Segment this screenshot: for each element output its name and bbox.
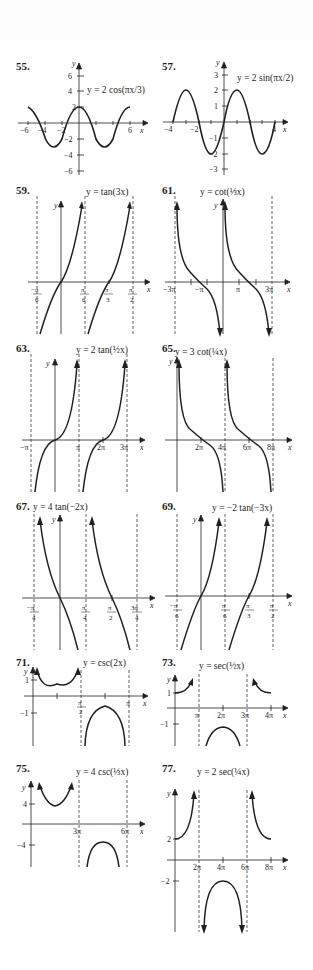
svg-text:1: 1 — [25, 676, 29, 685]
svg-text:2π: 2π — [217, 711, 225, 720]
svg-text:4π: 4π — [217, 863, 225, 872]
svg-text:π: π — [108, 604, 112, 612]
graph-55-plot: 642 −2−4−6 −6−4−2 6x y — [0, 60, 155, 180]
svg-text:π: π — [222, 602, 226, 610]
svg-text:−3: −3 — [209, 165, 218, 174]
graph-69-plot: yx −ππππ 6632 — [155, 500, 313, 650]
svg-text:6: 6 — [175, 612, 179, 620]
svg-text:x: x — [142, 699, 147, 708]
svg-text:y: y — [21, 783, 26, 792]
graph-59: 59. yx −ππππ 6632 y = tan(3x) — [0, 184, 155, 334]
svg-text:π: π — [105, 286, 109, 294]
svg-text:4: 4 — [83, 614, 87, 622]
svg-text:π: π — [270, 602, 274, 610]
svg-text:x: x — [146, 285, 151, 294]
svg-text:2π: 2π — [97, 443, 105, 452]
graph-63: 63. yx −ππ2π3π y = 2 tan(½x) — [0, 342, 155, 492]
svg-text:1: 1 — [167, 689, 171, 698]
svg-text:6π: 6π — [121, 827, 129, 836]
graph-57: 57. 321 −1−2−3 −4−24 xy y = 2 sin(πx/2) — [155, 60, 313, 180]
graph-63-plot: yx −ππ2π3π — [0, 342, 155, 492]
equation-label: y = −2 tan(−3x) — [212, 503, 272, 513]
svg-text:2: 2 — [167, 835, 171, 844]
svg-text:1: 1 — [214, 102, 218, 111]
graph-75-plot: yx 4−4 3π6π — [0, 762, 155, 867]
svg-text:3π: 3π — [131, 604, 139, 612]
svg-text:π: π — [78, 699, 82, 707]
svg-text:−π: −π — [195, 285, 204, 294]
graph-65: 65. yx 2π4π6π8π y = 3 cot(¼x) — [155, 342, 313, 492]
svg-text:x: x — [282, 863, 287, 872]
svg-text:6π: 6π — [241, 863, 249, 872]
graph-67: 67. yx −πππ3π 4424 y = 4 tan(−2x) — [0, 500, 155, 650]
svg-text:y: y — [23, 667, 28, 676]
svg-text:6: 6 — [82, 296, 86, 304]
svg-text:4π: 4π — [265, 711, 273, 720]
svg-text:y: y — [166, 789, 171, 798]
svg-text:−4: −4 — [164, 125, 173, 134]
equation-label: y = 4 tan(−2x) — [33, 502, 88, 512]
svg-text:6: 6 — [68, 72, 72, 81]
svg-text:3: 3 — [214, 71, 218, 80]
svg-text:6π: 6π — [243, 443, 251, 452]
faded-top-band — [0, 0, 313, 40]
svg-text:y: y — [168, 357, 173, 366]
equation-label: y = csc(2x) — [83, 658, 126, 668]
svg-text:π: π — [236, 285, 240, 294]
svg-text:y: y — [166, 675, 171, 684]
svg-text:3π: 3π — [120, 443, 128, 452]
equation-label: y = tan(3x) — [86, 187, 128, 197]
svg-text:2π: 2π — [195, 443, 203, 452]
equation-label: y = 2 sin(πx/2) — [237, 73, 293, 83]
svg-text:x: x — [286, 285, 291, 294]
svg-text:y: y — [45, 359, 50, 368]
svg-text:−π: −π — [27, 604, 35, 612]
svg-text:−4: −4 — [17, 841, 26, 850]
svg-text:−6: −6 — [64, 167, 73, 176]
svg-text:x: x — [287, 443, 292, 452]
equation-label: y = cot(⅓x) — [200, 187, 245, 197]
svg-text:4: 4 — [272, 125, 276, 134]
svg-text:2: 2 — [79, 708, 83, 716]
svg-text:4π: 4π — [218, 443, 226, 452]
graph-69: 69. yx −ππππ 6632 y = −2 tan(−3x) — [155, 500, 313, 650]
graph-75: 75. yx 4−4 3π6π y = 4 csc(⅓x) — [0, 762, 155, 867]
graph-67-plot: yx −πππ3π 4424 — [0, 500, 155, 650]
svg-text:3π: 3π — [241, 711, 249, 720]
svg-text:−2: −2 — [190, 125, 199, 134]
equation-label: y = 2 sec(¼x) — [197, 767, 249, 777]
graph-77: 77. yx 2−2 2π4π6π8π y = 2 sec(¼x) — [155, 762, 313, 962]
svg-text:y: y — [71, 59, 76, 68]
equation-label: y = 3 cot(¼x) — [175, 347, 227, 357]
svg-text:x: x — [149, 601, 154, 610]
graph-61: 61. yx −3π−ππ3π y = cot(⅓x) — [155, 184, 313, 334]
svg-text:2: 2 — [271, 612, 275, 620]
svg-text:−4: −4 — [64, 151, 73, 160]
svg-text:8π: 8π — [265, 863, 273, 872]
svg-text:4: 4 — [23, 800, 27, 809]
graph-73: 73. yx 1−1 π2π3π4π y = sec(½x) — [155, 656, 313, 746]
svg-text:−π: −π — [20, 443, 29, 452]
svg-text:π: π — [246, 602, 250, 610]
svg-text:4: 4 — [135, 614, 139, 622]
svg-text:2: 2 — [72, 103, 76, 112]
svg-text:π: π — [129, 286, 133, 294]
svg-text:x: x — [139, 443, 144, 452]
svg-text:2π: 2π — [193, 863, 201, 872]
svg-text:4: 4 — [68, 87, 72, 96]
equation-label: y = 2 tan(½x) — [76, 345, 128, 355]
svg-text:2: 2 — [214, 86, 218, 95]
graph-61-plot: yx −3π−ππ3π — [155, 184, 313, 334]
svg-text:6: 6 — [128, 126, 132, 135]
svg-text:−2: −2 — [209, 150, 218, 159]
svg-text:4: 4 — [32, 614, 36, 622]
svg-text:x: x — [282, 711, 287, 720]
svg-text:6: 6 — [35, 296, 39, 304]
graph-71: 71. yx 1−1 π2 π y = csc(2x) — [0, 656, 155, 746]
equation-label: y = 2 cos(πx/3) — [87, 85, 145, 95]
svg-text:y: y — [192, 515, 197, 524]
svg-text:8π: 8π — [267, 443, 275, 452]
svg-text:−π: −π — [31, 286, 39, 294]
svg-text:2: 2 — [130, 296, 134, 304]
svg-text:−2: −2 — [57, 126, 66, 135]
